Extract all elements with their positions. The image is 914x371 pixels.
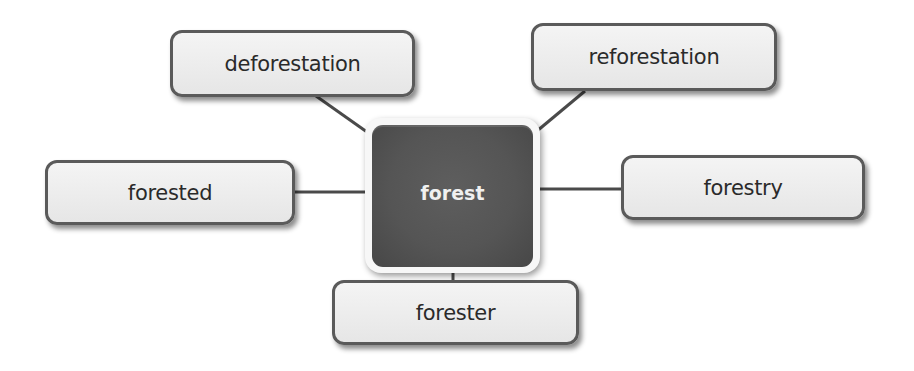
- word-web-diagram: deforestation reforestation forested for…: [0, 0, 914, 371]
- node-forested: forested: [45, 160, 295, 225]
- connector-deforestation: [316, 96, 367, 132]
- node-reforestation: reforestation: [531, 23, 777, 91]
- node-label: forestry: [703, 176, 782, 200]
- node-label: reforestation: [589, 45, 720, 69]
- node-label: deforestation: [225, 52, 361, 76]
- node-forestry: forestry: [621, 155, 865, 220]
- node-label: forested: [128, 181, 212, 205]
- node-deforestation: deforestation: [170, 30, 415, 97]
- center-node-fill: forest: [372, 125, 533, 267]
- center-node-label: forest: [421, 182, 485, 204]
- node-forester: forester: [332, 280, 579, 345]
- node-label: forester: [416, 301, 496, 325]
- connector-reforestation: [537, 91, 585, 131]
- center-node: forest: [365, 118, 540, 273]
